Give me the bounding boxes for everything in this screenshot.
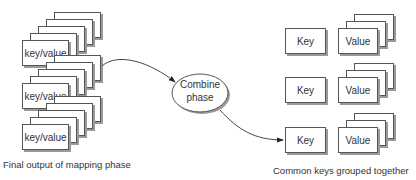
key-box: Key (285, 28, 326, 54)
value-card: Value (338, 77, 378, 103)
arrow-to-combine (102, 59, 175, 82)
value-label: Value (346, 85, 371, 96)
value-card: Value (338, 28, 378, 54)
key-label: Key (297, 85, 314, 96)
key-label: Key (297, 135, 314, 146)
right-caption: Common keys grouped together (273, 165, 409, 176)
combine-label-line1: Combine (172, 78, 228, 91)
key-box: Key (285, 127, 326, 153)
value-label: Value (346, 135, 371, 146)
combine-phase-label: Combine phase (172, 78, 228, 104)
value-card: Value (338, 127, 378, 153)
arrow-to-grouped-keys (220, 110, 283, 140)
combine-label-line2: phase (172, 91, 228, 104)
key-label: Key (297, 36, 314, 47)
value-label: Value (346, 36, 371, 47)
key-box: Key (285, 77, 326, 103)
